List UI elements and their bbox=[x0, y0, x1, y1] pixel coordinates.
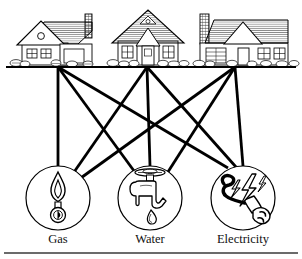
utility-node-electricity[interactable]: Electricity bbox=[211, 166, 275, 246]
gas-label: Gas bbox=[48, 232, 68, 246]
house-right bbox=[193, 14, 299, 67]
water-label: Water bbox=[135, 232, 165, 246]
edge-house2-electricity bbox=[147, 67, 236, 167]
three-utilities-diagram: Gas Water bbox=[0, 0, 302, 259]
utility-node-water[interactable]: Water bbox=[118, 166, 182, 246]
edge-house2-water bbox=[147, 67, 150, 166]
edge-layer bbox=[58, 67, 243, 180]
edge-house3-gas bbox=[78, 67, 235, 180]
electricity-label: Electricity bbox=[217, 232, 270, 246]
figure-canvas: Gas Water bbox=[0, 0, 302, 259]
edge-house3-electricity bbox=[235, 67, 243, 166]
house-left bbox=[10, 14, 93, 67]
utility-node-gas[interactable]: Gas bbox=[26, 166, 90, 246]
edge-house1-water bbox=[58, 67, 137, 175]
house-middle bbox=[107, 10, 189, 67]
edge-house3-water bbox=[166, 67, 235, 175]
